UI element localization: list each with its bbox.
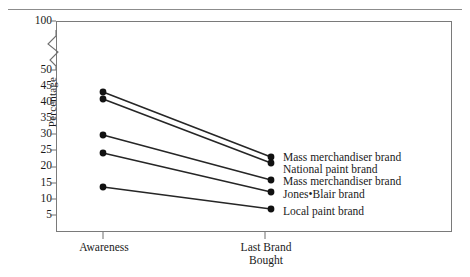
series-line-mass-merchandiser-1: [103, 92, 271, 157]
marker-local-paint-awareness: [100, 184, 107, 191]
series-lines: [103, 92, 271, 209]
marker-mass-merchandiser-2-awareness: [100, 132, 107, 139]
y-axis-break-zigzag: [48, 30, 58, 70]
marker-jones-blair-awareness: [100, 150, 107, 157]
chart-vector-layer: [0, 0, 470, 277]
marker-mass-merchandiser-2-last-brand: [268, 177, 275, 184]
x-axis-ticks: [103, 232, 265, 239]
series-line-national-paint: [103, 99, 271, 163]
marker-mass-merchandiser-1-awareness: [100, 89, 107, 96]
marker-national-paint-awareness: [100, 96, 107, 103]
series-line-local-paint: [103, 187, 271, 209]
marker-mass-merchandiser-1-last-brand: [268, 154, 275, 161]
marker-national-paint-last-brand: [268, 160, 275, 167]
marker-jones-blair-last-brand: [268, 189, 275, 196]
marker-local-paint-last-brand: [268, 206, 275, 213]
chart-figure: Percentage 100 50 45 40 35 30 25 20 15 1…: [0, 0, 470, 277]
